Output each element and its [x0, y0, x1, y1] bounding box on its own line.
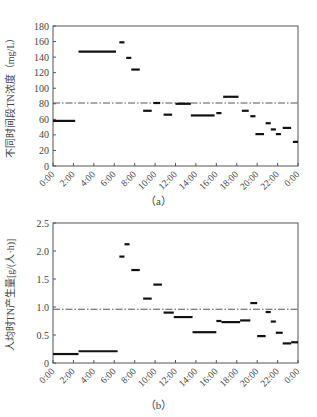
y-tick-label: 2.0	[37, 246, 50, 257]
x-tick-label: 2:00	[58, 366, 77, 385]
x-tick-label: 18:00	[218, 169, 241, 192]
y-tick-label: 160	[34, 36, 49, 47]
y-tick-label: 120	[34, 67, 49, 78]
x-tick-label: 22:00	[259, 169, 282, 192]
x-tick-label: 4:00	[78, 366, 97, 385]
x-tick-label: 10:00	[136, 366, 159, 389]
y-tick-label: 1.5	[37, 274, 50, 285]
y-tick-label: 60	[39, 114, 49, 125]
y-axis-label: 人均时TN产生量[g/(人·h)]	[4, 239, 17, 352]
x-tick-label: 22:00	[259, 366, 282, 389]
y-tick-label: 1.0	[37, 302, 50, 313]
x-tick-label: 10:00	[136, 169, 159, 192]
chart-panel-a: 0204060801001201401601800:002:004:006:00…	[0, 0, 317, 210]
x-tick-label: 16:00	[197, 169, 220, 192]
x-tick-label: 6:00	[99, 366, 118, 385]
x-tick-label: 0:00	[37, 169, 56, 188]
x-tick-label: 18:00	[218, 366, 241, 389]
x-tick-label: 0:00	[282, 366, 301, 385]
plot-frame	[53, 223, 298, 363]
x-tick-label: 12:00	[157, 366, 180, 389]
y-tick-label: 2.5	[37, 218, 50, 229]
x-tick-label: 14:00	[177, 169, 200, 192]
y-tick-label: 20	[39, 145, 49, 156]
x-tick-label: 20:00	[238, 366, 261, 389]
y-tick-label: 180	[34, 21, 49, 32]
x-tick-label: 20:00	[238, 169, 261, 192]
x-tick-label: 8:00	[119, 169, 138, 188]
chart-b-caption: （b）	[0, 396, 317, 412]
plot-frame	[53, 26, 298, 166]
x-tick-label: 12:00	[157, 169, 180, 192]
x-tick-label: 8:00	[119, 366, 138, 385]
x-tick-label: 6:00	[99, 169, 118, 188]
chart-panel-b: 00.51.01.52.02.50:002:004:006:008:0010:0…	[0, 210, 317, 417]
chart-b-plot: 00.51.01.52.02.50:002:004:006:008:0010:0…	[0, 210, 317, 417]
x-tick-label: 16:00	[197, 366, 220, 389]
chart-a-caption: （a）	[0, 192, 317, 208]
x-tick-label: 0:00	[282, 169, 301, 188]
chart-a-plot: 0204060801001201401601800:002:004:006:00…	[0, 0, 317, 210]
y-tick-label: 100	[34, 83, 49, 94]
y-tick-label: 40	[39, 129, 49, 140]
x-tick-label: 4:00	[78, 169, 97, 188]
y-axis-label: 不同时间段TN浓度（mg/L）	[4, 33, 16, 158]
y-tick-label: 80	[39, 98, 49, 109]
x-tick-label: 2:00	[58, 169, 77, 188]
x-tick-label: 14:00	[177, 366, 200, 389]
y-tick-label: 0.5	[37, 330, 50, 341]
x-tick-label: 0:00	[37, 366, 56, 385]
y-tick-label: 140	[34, 52, 49, 63]
